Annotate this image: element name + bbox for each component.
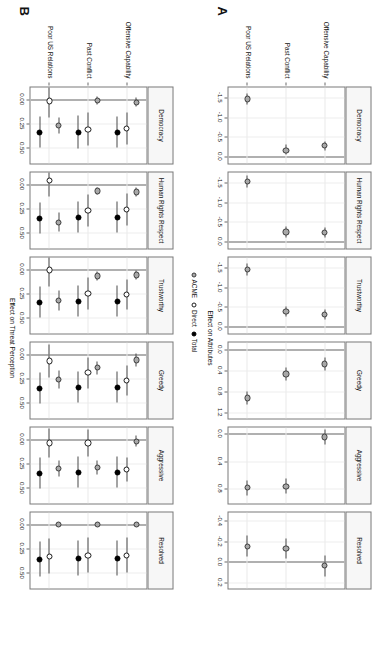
row-gridline [285,257,286,333]
estimate-point-direct [123,552,129,558]
x-axis-tick-label: 0.50 [18,558,25,586]
estimate-point-total [75,129,81,135]
estimate-point-acme [244,394,250,400]
estimate-point-acme [321,562,327,568]
facet-strip-label: Greedy [147,341,173,419]
facet-strip-label: Aggressive [147,426,173,504]
facet-strip-label: Resolved [147,511,173,589]
estimate-point-total [36,129,42,135]
x-axis-tick [224,326,227,327]
estimate-point-acme [282,370,288,376]
estimate-point-acme [94,272,100,278]
plot-area-aggressive [29,426,147,504]
facet-greedy: Greedy [227,341,371,419]
estimate-point-direct [84,369,90,375]
row-gridline [324,257,325,333]
x-axis-tick [224,370,227,371]
x-axis-tick [224,306,227,307]
x-axis-tick [224,241,227,242]
x-axis-title: Effect on Attributes [205,86,213,589]
facet-title-text: Human Rights Respect [157,177,164,243]
x-axis-tick [224,349,227,350]
estimate-point-acme [282,545,288,551]
x-axis-tick [224,561,227,562]
facet-strip-label: Trustworthy [345,256,371,334]
facet-strip-label: Aggressive [345,426,371,504]
x-axis-tick [224,520,227,521]
estimate-point-direct [84,290,90,296]
x-axis-title: Effect on Threat Perception [7,86,15,589]
facet-strip-label: Trustworthy [147,256,173,334]
x-axis-tick-label: 0.50 [18,473,25,501]
estimate-point-acme [55,465,61,471]
estimate-point-acme [133,521,139,527]
row-gridline [324,342,325,418]
plot-area-democracy [227,86,345,164]
facet-strip-label: Greedy [345,341,371,419]
x-axis-tick [26,184,29,185]
x-axis-tick-label: 0.50 [18,133,25,161]
estimate-point-acme [244,484,250,490]
panel-b-letter: B [16,6,31,15]
x-axis-tick [26,463,29,464]
x-axis-tick [224,541,227,542]
x-axis-tick-label: 0.0 [216,227,223,255]
x-axis-tick-label: 0.25 [18,364,25,392]
estimate-point-acme [55,521,61,527]
facet-resolved: Resolved [29,511,173,589]
estimate-point-acme [244,178,250,184]
plot-area-trustworthy [29,256,147,334]
x-axis-tick [26,123,29,124]
y-axis-tick [324,82,325,85]
estimate-point-total [75,214,81,220]
legend-item-direct: Direct [190,302,197,326]
legend-symbol-total-icon [191,331,196,336]
estimate-point-direct [46,439,52,445]
plot-area-trustworthy [227,256,345,334]
estimate-point-acme [282,228,288,234]
estimate-point-acme [55,122,61,128]
estimate-point-total [114,469,120,475]
x-axis-tick [224,461,227,462]
x-axis-tick [224,391,227,392]
estimate-point-acme [244,266,250,272]
estimate-point-total [36,556,42,562]
x-axis-tick-label: 0.00 [18,510,25,538]
plot-area-resolved [227,511,345,589]
x-axis-tick [224,182,227,183]
estimate-point-total [36,470,42,476]
estimate-point-total [36,299,42,305]
row-gridline [324,87,325,163]
facet-title-text: Resolved [157,537,164,564]
legend-label: ACME [190,279,197,297]
estimate-point-direct [123,377,129,383]
estimate-point-total [75,555,81,561]
estimate-point-acme [94,187,100,193]
estimate-point-acme [282,147,288,153]
x-axis-tick [224,117,227,118]
x-axis-tick-label: 0.50 [18,388,25,416]
estimate-point-direct [84,207,90,213]
facet-strip-label: Human Rights Respect [147,171,173,249]
x-axis-tick [26,354,29,355]
x-axis-tick [26,524,29,525]
facet-title-text: Democracy [355,109,362,141]
estimate-point-acme [133,99,139,105]
facet-title-text: Resolved [355,537,362,564]
facet-trustworthy: Trustworthy [227,256,371,334]
x-axis-tick [26,572,29,573]
x-axis-tick [224,287,227,288]
facet-democracy: Democracy [227,86,371,164]
estimate-point-total [114,384,120,390]
estimate-point-total [75,469,81,475]
x-axis-tick [26,317,29,318]
legend: ACMEDirectTotal [190,272,197,352]
facet-title-text: Aggressive [355,449,362,481]
x-axis-tick-label: 0.4 [216,447,223,475]
estimate-point-direct [84,552,90,558]
estimate-point-total [114,555,120,561]
x-axis-tick-label: 0.00 [18,255,25,283]
x-axis-tick [224,97,227,98]
x-axis-tick [26,439,29,440]
x-axis-tick [26,208,29,209]
